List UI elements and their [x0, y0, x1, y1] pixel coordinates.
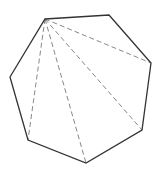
heptagon-diagram — [0, 0, 163, 169]
diagonal-AE — [45, 19, 86, 163]
heptagon-outline — [10, 15, 151, 163]
diagonal-lines — [28, 19, 151, 163]
diagonal-AF — [28, 19, 45, 140]
diagonal-AC — [45, 19, 151, 63]
